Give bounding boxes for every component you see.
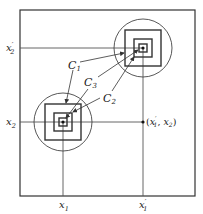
x1-prime-label: x′1 — [139, 198, 147, 213]
c1-label: C1 — [68, 59, 81, 73]
lower-center-point — [61, 120, 64, 123]
c2-label: C2 — [103, 92, 116, 106]
x2-prime-label: x′2 — [6, 41, 14, 56]
c3-label: C3 — [84, 76, 97, 90]
c2-arrow-lower — [73, 98, 100, 112]
x2-label: x2 — [6, 116, 16, 130]
c1-arrow-lower — [66, 70, 73, 103]
diagram-canvas: C1 C3 C2 x′2 x2 x1 x′1 (x′1, x2) — [0, 0, 203, 214]
upper-center-point — [141, 46, 144, 49]
x1-label: x1 — [59, 199, 69, 213]
intersection-point — [141, 120, 144, 123]
point-label: (x′1, x2) — [146, 115, 176, 128]
